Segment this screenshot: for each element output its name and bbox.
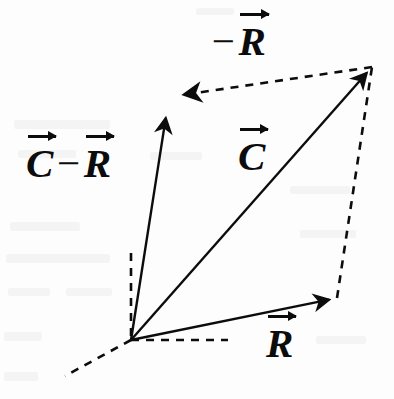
vector-arrow-accent-icon [28,135,57,138]
label-c: C [238,133,265,177]
glyph-c: C [26,143,53,184]
minus-sign: − [208,21,239,62]
vector-canvas [0,0,394,399]
axis-depth [65,340,131,376]
vector-symbol-c: C [238,133,265,177]
vector-arrow-accent-icon [268,315,297,318]
glyph-r: R [84,143,111,184]
label-negative-r: −R [208,18,266,62]
vector-arrow-accent-icon [86,135,115,138]
vector-negative-R [184,67,372,95]
vector-C [131,73,367,340]
label-c-minus-r: C−R [26,140,111,184]
vector-symbol-r: R [239,18,266,62]
vector-arrow-accent-icon [240,128,269,131]
vector-arrow-accent-icon [240,13,269,16]
label-r: R [266,320,293,364]
vector-symbol-c: C [26,140,53,184]
vector-symbol-r: R [266,320,293,364]
glyph-c: C [238,136,265,177]
vector-diagram-figure: −R C−R C R [0,0,394,399]
vector-arrows-group [131,67,372,340]
vector-symbol-r: R [84,140,111,184]
minus-sign: − [53,143,84,184]
glyph-r: R [266,323,293,364]
glyph-r: R [239,21,266,62]
construction-lines-group [65,67,372,376]
